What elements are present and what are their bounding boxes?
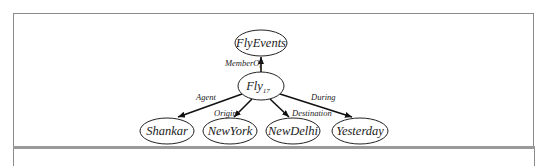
node-yesterday: Yesterday <box>332 118 388 144</box>
node-newdelhi: NewDelhi <box>266 118 320 144</box>
node-label-fly17: Fly <box>245 79 263 93</box>
node-shankar: Shankar <box>140 118 194 144</box>
node-flyevents: FlyEvents <box>235 30 287 56</box>
edge-label-during: During <box>310 92 336 102</box>
semantic-network-diagram: MemberOf Agent Origin Destination During… <box>0 0 543 166</box>
edge-label-origin: Origin <box>214 108 237 118</box>
node-fly17: Fly17 <box>238 72 284 100</box>
node-subscript-fly17: 17 <box>263 87 271 95</box>
node-label-newdelhi: NewDelhi <box>267 124 319 138</box>
edge-label-agent: Agent <box>195 92 216 102</box>
node-label-newyork: NewYork <box>207 124 253 138</box>
node-label-yesterday: Yesterday <box>336 124 384 138</box>
node-newyork: NewYork <box>203 118 257 144</box>
edge-memberof: MemberOf <box>224 57 263 72</box>
node-label-flyevents: FlyEvents <box>235 36 286 50</box>
edge-label-memberof: MemberOf <box>224 58 263 68</box>
node-label-shankar: Shankar <box>146 124 188 138</box>
edge-label-destination: Destination <box>291 108 332 118</box>
